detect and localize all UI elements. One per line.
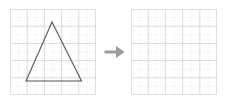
source-grid[interactable] [10,9,96,95]
arrow-right-icon [103,44,126,60]
target-grid[interactable] [131,9,217,95]
grid-lines [131,9,217,95]
transformation-figure [0,0,231,104]
grid-lines [10,9,96,95]
